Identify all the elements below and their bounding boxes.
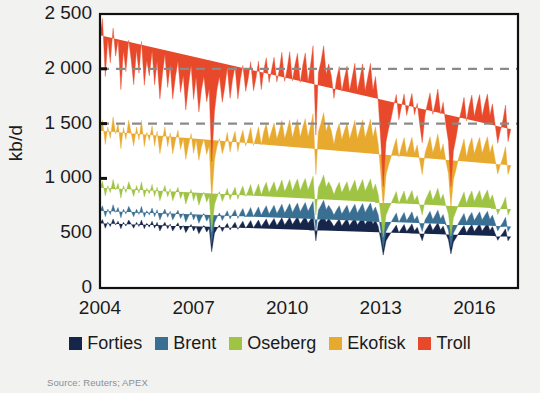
legend-swatch-icon — [418, 337, 431, 350]
legend-swatch-icon — [155, 337, 168, 350]
x-tick-label-2004: 2004 — [65, 297, 135, 319]
x-tick-label-2007: 2007 — [159, 297, 229, 319]
legend-swatch-icon — [69, 337, 82, 350]
legend-item-troll[interactable]: Troll — [418, 334, 470, 352]
legend-label: Oseberg — [247, 334, 316, 352]
legend-label: Ekofisk — [347, 334, 405, 352]
legend-item-ekofisk[interactable]: Ekofisk — [329, 334, 405, 352]
x-tick-label-2016: 2016 — [439, 297, 509, 319]
legend-swatch-icon — [329, 337, 342, 350]
chart-figure: kb/d 2 5002 0001 5001 0005000 2004200720… — [0, 0, 540, 393]
legend-label: Troll — [436, 334, 470, 352]
legend-swatch-icon — [229, 337, 242, 350]
chart-legend: FortiesBrentOsebergEkofiskTroll — [0, 334, 540, 352]
legend-item-brent[interactable]: Brent — [155, 334, 216, 352]
legend-label: Brent — [173, 334, 216, 352]
legend-item-oseberg[interactable]: Oseberg — [229, 334, 316, 352]
legend-item-forties[interactable]: Forties — [69, 334, 142, 352]
source-note: Source: Reuters; APEX — [47, 377, 148, 388]
x-tick-label-2013: 2013 — [346, 297, 416, 319]
legend-label: Forties — [87, 334, 142, 352]
x-tick-label-2010: 2010 — [252, 297, 322, 319]
